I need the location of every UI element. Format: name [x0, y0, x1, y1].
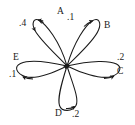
loop-weight-d: .2: [72, 110, 79, 120]
loop-label-b: B: [104, 21, 110, 31]
loop-label-d: D: [55, 109, 62, 119]
self-loop-e: [17, 61, 67, 77]
self-loop-a: [33, 20, 67, 66]
arrowhead-a: [38, 20, 43, 23]
diagram-canvas: A .4 B .1 C .2 D .2 E .1: [0, 0, 135, 125]
loop-weight-c: .2: [117, 53, 124, 63]
loop-label-a: A: [57, 7, 64, 17]
loop-weight-e: .1: [9, 70, 16, 80]
self-loop-d: [59, 66, 77, 110]
center-node: [65, 64, 70, 69]
self-loop-c: [67, 61, 120, 77]
self-loop-b: [67, 20, 100, 66]
loop-weight-a: .4: [19, 19, 26, 29]
loop-label-e: E: [13, 53, 19, 63]
loop-label-c: C: [117, 67, 123, 77]
loop-weight-b: .1: [67, 13, 74, 23]
